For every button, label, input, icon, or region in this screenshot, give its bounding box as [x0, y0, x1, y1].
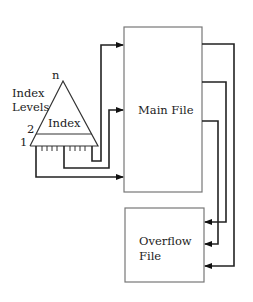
- main-file-label: Main File: [138, 103, 194, 117]
- index-levels-label-1: Index: [12, 86, 45, 100]
- index-label: Index: [48, 116, 81, 130]
- isam-diagram: n Index Levels Index 2 1 Main File Overf…: [0, 0, 253, 302]
- index-levels-label-2: Levels: [12, 100, 49, 114]
- level-n-label: n: [52, 68, 60, 82]
- overflow-file-label-1: Overflow: [139, 234, 192, 248]
- overflow-pointer-2: [202, 82, 226, 222]
- level-2-label: 2: [27, 122, 34, 136]
- level-1-label: 1: [20, 135, 27, 149]
- overflow-file-label-2: File: [139, 249, 161, 263]
